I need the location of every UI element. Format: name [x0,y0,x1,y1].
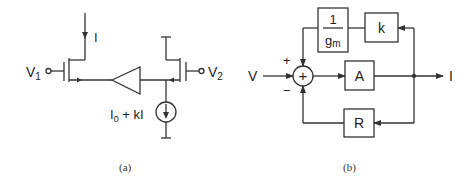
caption-a: (a) [119,161,132,174]
v2-label: V2 [208,64,223,82]
caption-b: (b) [343,161,356,174]
plus-sign: + [283,53,291,68]
input-label: V [248,68,258,84]
m2-source-arrow-icon [169,78,174,83]
block-k-label: k [378,20,386,36]
block-a-label: A [355,68,365,84]
source-label: I0 + kI [110,107,144,124]
minus-sign: − [283,83,291,98]
output-label: I [449,68,453,84]
gm-numerator: 1 [329,12,336,27]
current-arrow-icon [82,32,88,39]
block-r-label: R [354,115,364,131]
current-in-label: I [94,30,98,45]
m1-source-arrow-icon [77,78,82,83]
sum-symbol: + [299,67,308,84]
gm-denominator: gm [325,33,341,49]
figure-canvas: I V1 V2 I0 + kI (a) V I + [0,0,473,183]
v1-terminal [46,69,51,74]
source-arrow-icon [163,112,169,119]
labels-a: I V1 V2 I0 + kI (a) [26,30,223,174]
v2-terminal [199,69,204,74]
labels-b: V I + − + A R k 1 gm (b) [248,12,453,174]
amplifier-triangle [112,67,140,94]
v1-label: V1 [26,64,41,82]
